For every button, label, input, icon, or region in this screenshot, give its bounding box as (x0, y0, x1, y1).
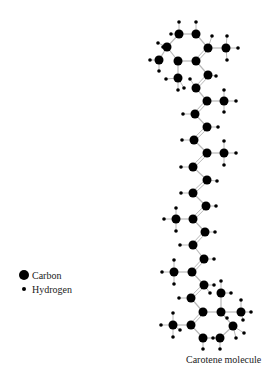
legend-hydrogen-label: Hydrogen (32, 284, 72, 295)
hydrogen-atoms (148, 20, 253, 351)
hydrogen-bond-lines (150, 22, 251, 349)
legend-hydrogen: Hydrogen (19, 282, 72, 296)
legend: Carbon Hydrogen (19, 268, 72, 296)
hydrogen-dot-icon (22, 287, 26, 291)
diagram-caption: Carotene molecule (186, 354, 261, 365)
bond-lines (159, 34, 241, 338)
carbon-atoms (155, 30, 246, 343)
legend-carbon: Carbon (19, 268, 72, 282)
carotene-molecule-diagram (0, 0, 270, 373)
legend-carbon-label: Carbon (32, 270, 61, 281)
carbon-dot-icon (19, 270, 29, 280)
